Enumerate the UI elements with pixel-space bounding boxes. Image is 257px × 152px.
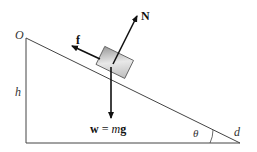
block (96, 46, 134, 78)
incline-surface (26, 38, 240, 143)
label-weight: w = mg (90, 122, 126, 136)
label-angle: θ (193, 127, 199, 139)
incline-diagram: O h d θ N f w = mg (0, 0, 257, 152)
label-friction: f (76, 33, 81, 47)
angle-arc (210, 130, 213, 143)
label-height: h (15, 85, 21, 99)
label-normal: N (141, 9, 150, 23)
label-distance: d (234, 125, 241, 139)
friction-arrow (72, 46, 100, 59)
label-origin: O (15, 28, 24, 42)
